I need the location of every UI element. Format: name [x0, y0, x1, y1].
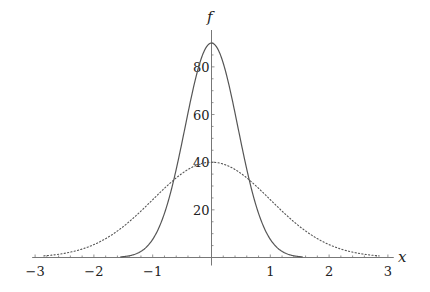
x-tick-label: −3	[26, 264, 45, 279]
x-tick-label: −1	[143, 264, 162, 279]
chart: −3−2−112320406080 x f	[0, 0, 430, 292]
labels: x f	[206, 8, 407, 266]
x-tick-label: −2	[84, 264, 103, 279]
y-tick-label: 80	[193, 60, 210, 75]
y-tick-label: 40	[193, 155, 210, 170]
y-axis-label: f	[206, 8, 215, 26]
y-tick-label: 20	[193, 203, 210, 218]
y-tick-label: 60	[193, 108, 210, 123]
x-tick-label: 1	[266, 264, 274, 279]
x-tick-label: 3	[384, 264, 392, 279]
x-axis-label: x	[398, 248, 407, 266]
axes: −3−2−112320406080	[26, 30, 394, 279]
x-tick-label: 2	[325, 264, 333, 279]
